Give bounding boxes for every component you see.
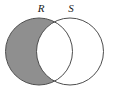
set-label-s: S xyxy=(68,2,74,14)
set-label-r: R xyxy=(37,2,45,14)
venn-diagram-figure: R S xyxy=(0,0,114,91)
venn-diagram-canvas: R S xyxy=(0,0,114,91)
